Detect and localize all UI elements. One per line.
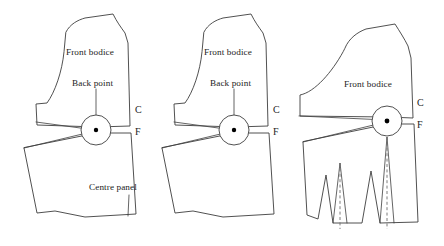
panel-2-bust-point-dot [232, 128, 236, 132]
panel-3-centre-front-c-label: C [417, 98, 424, 108]
panel-2-upper-bodice-outline [174, 14, 268, 127]
panel-2-lower-body-outline [162, 133, 274, 217]
panel-2-back-point-label: Back point [210, 79, 251, 88]
panel-3-lower-body-outline [303, 124, 418, 223]
panel-3-centre-front-f-label: F [417, 120, 423, 130]
panel-2-group[interactable] [162, 14, 274, 217]
pattern-drawing-canvas [0, 0, 444, 246]
panel-3-group[interactable] [299, 24, 418, 229]
panel-1-upper-bodice-outline [36, 14, 130, 127]
panel-1-centre-front-c-label: C [135, 105, 142, 115]
panel-1-lower-body-outline [24, 133, 136, 217]
panel-3-bust-point-dot [385, 119, 390, 124]
panel-1-centre-panel-label: Centre panel [89, 183, 137, 192]
panel-2-centre-front-f-label: F [273, 127, 279, 137]
panel-1-centre-front-f-label: F [135, 127, 141, 137]
pattern-diagram: Front bodice Back point C F Centre panel… [0, 0, 444, 246]
panel-1-back-point-label: Back point [72, 79, 113, 88]
panel-2-centre-front-c-label: C [273, 105, 280, 115]
panel-3-upper-bodice-outline [300, 24, 413, 118]
panel-2-front-bodice-label: Front bodice [204, 48, 252, 57]
panel-1-bust-point-dot [94, 128, 98, 132]
panel-1-front-bodice-label: Front bodice [66, 48, 114, 57]
panel-3-front-bodice-label: Front bodice [344, 80, 392, 89]
